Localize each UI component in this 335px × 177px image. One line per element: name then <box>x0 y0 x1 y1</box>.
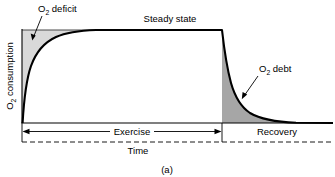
recovery-label: Recovery <box>257 126 297 137</box>
oxygen-consumption-chart: Exercise Recovery Time Steady state O2 d… <box>0 0 335 177</box>
o2-debt-leader-line <box>244 76 258 96</box>
o2-debt-region <box>222 30 333 123</box>
time-axis-label: Time <box>128 145 149 156</box>
o2-deficit-label-rest: deficit <box>49 3 77 14</box>
o2-consumption-curve <box>23 30 333 123</box>
figure-container: Exercise Recovery Time Steady state O2 d… <box>0 0 335 177</box>
y-axis-label: O2 consumption <box>4 42 17 110</box>
steady-state-label: Steady state <box>144 13 197 24</box>
exercise-label: Exercise <box>114 126 150 137</box>
y-axis-label-rest: consumption <box>4 42 15 99</box>
o2-deficit-label: O2 deficit <box>38 3 77 16</box>
exercise-arrow-right-head <box>215 129 222 135</box>
o2-debt-label: O2 debt <box>259 63 292 76</box>
y-axis-label-o: O <box>4 102 15 109</box>
exercise-arrow-left-head <box>23 129 30 135</box>
figure-caption: (a) <box>161 164 173 175</box>
o2-debt-label-o: O <box>259 63 266 74</box>
o2-deficit-region <box>22 30 96 123</box>
o2-debt-annotation: O2 debt <box>242 63 292 99</box>
o2-deficit-label-o: O <box>38 3 45 14</box>
o2-debt-label-rest: debt <box>270 63 291 74</box>
